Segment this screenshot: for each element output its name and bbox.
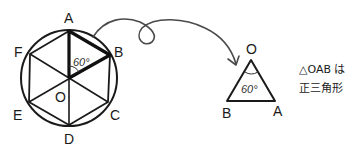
label-f: F — [14, 44, 23, 60]
label-e: E — [13, 107, 22, 123]
diagram-canvas: A B C D E F O 60° O B A 60° △OAB は 正三角形 — [0, 0, 360, 153]
triangle-oab-highlight — [69, 31, 110, 78]
tri-label-o: O — [246, 41, 257, 57]
label-b: B — [114, 44, 123, 60]
tri-label-a: A — [273, 103, 283, 119]
tri-label-b: B — [222, 105, 231, 121]
label-d: D — [64, 131, 74, 147]
label-a: A — [64, 10, 74, 26]
label-c: C — [110, 107, 120, 123]
angle-arc-triangle — [245, 72, 258, 74]
angle-label-hexagon: 60° — [73, 56, 90, 68]
note-line-2: 正三角形 — [299, 82, 343, 95]
angle-label-triangle: 60° — [241, 83, 258, 95]
note-line-1: △OAB は — [299, 63, 346, 76]
label-o: O — [55, 89, 66, 105]
